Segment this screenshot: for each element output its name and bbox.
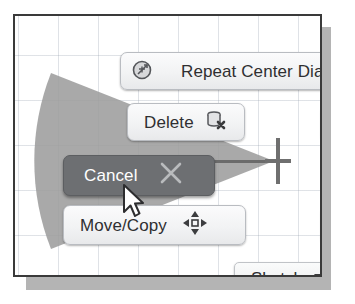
sketch-dropdown-button[interactable]: Sketch bbox=[234, 262, 322, 277]
menu-item-cancel[interactable]: Cancel bbox=[63, 155, 215, 196]
delete-cylinder-icon bbox=[205, 108, 229, 137]
menu-item-repeat-center-diameter[interactable]: Repeat Center Dia bbox=[120, 52, 322, 90]
sketch-viewport[interactable]: Repeat Center Dia Delete Cancel bbox=[13, 14, 322, 277]
move-four-arrows-icon bbox=[182, 210, 208, 241]
cancel-x-icon bbox=[157, 159, 185, 192]
center-diameter-icon bbox=[131, 57, 155, 86]
menu-item-label: Repeat Center Dia bbox=[181, 63, 322, 80]
menu-item-move-copy[interactable]: Move/Copy bbox=[63, 205, 246, 245]
menu-item-clipped-right-upper[interactable] bbox=[321, 104, 322, 142]
menu-item-clipped-right-lower[interactable] bbox=[321, 205, 322, 245]
menu-item-label: Cancel bbox=[84, 167, 138, 184]
chevron-down-icon bbox=[314, 274, 322, 278]
sketch-dropdown-label: Sketch bbox=[251, 270, 303, 278]
menu-item-delete[interactable]: Delete bbox=[127, 103, 245, 141]
screenshot-stage: Repeat Center Dia Delete Cancel bbox=[0, 0, 355, 304]
menu-item-label: Move/Copy bbox=[80, 217, 167, 234]
menu-item-label: Delete bbox=[144, 114, 194, 131]
